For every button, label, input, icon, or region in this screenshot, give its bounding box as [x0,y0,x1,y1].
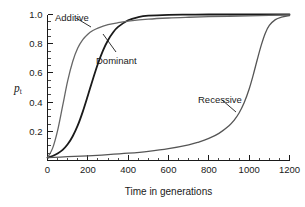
x-axis-tick-label: 1200 [279,164,300,175]
x-axis-tick-label: 600 [161,164,177,175]
annotation-label-additive: Additive [55,12,89,23]
series-curve-additive [48,14,290,157]
series-curve-recessive [48,16,290,158]
annotation-label-recessive: Recessive [198,94,242,105]
x-axis-tick-label: 0 [45,164,50,175]
series-curve-dominant [48,15,290,158]
x-axis-tick-label: 800 [201,164,217,175]
y-axis-tick-label: 0.6 [29,67,42,78]
x-axis-title: Time in generations [125,186,212,197]
y-axis-tick-label: 0.8 [29,38,42,49]
chart-svg: 0200400600800100012000.20.40.60.81.0Addi… [0,0,305,207]
y-axis-title: pt [13,82,23,97]
axis-spines [48,15,290,161]
x-axis-tick-label: 1000 [239,164,260,175]
x-axis-tick-label: 200 [80,164,96,175]
y-axis-tick-label: 0.2 [29,126,42,137]
y-axis-tick-label: 1.0 [29,9,42,20]
annotation-label-dominant: Dominant [96,55,137,66]
x-axis-tick-label: 400 [120,164,136,175]
chart-render-group: 0200400600800100012000.20.40.60.81.0Addi… [13,9,300,197]
chart-figure: 0200400600800100012000.20.40.60.81.0Addi… [0,0,305,207]
y-axis-tick-label: 0.4 [29,97,42,108]
